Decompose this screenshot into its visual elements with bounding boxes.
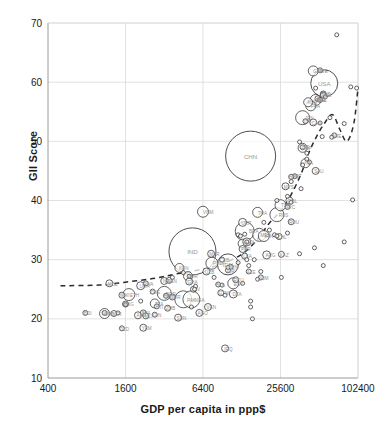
data-bubble (328, 116, 332, 120)
data-bubble (298, 140, 302, 144)
chart-root: 10203040506070 4001600640025600102400 CH… (0, 0, 381, 427)
bubble-label: POL (288, 199, 298, 204)
bubble-label: SOM (102, 311, 113, 316)
y-tick-label: 70 (31, 18, 43, 29)
bubble-label: GIN (153, 313, 161, 318)
y-axis-label: GII Score (27, 101, 39, 211)
data-bubble (289, 180, 293, 184)
bubble-label: USA (318, 80, 332, 87)
bubble-label: BOL (216, 283, 226, 288)
bubble-label: ISR (304, 119, 312, 124)
bubble-label: LKA (243, 254, 253, 259)
bubble-label: THA (258, 211, 268, 216)
data-bubble (335, 33, 339, 37)
data-bubble (249, 305, 253, 309)
y-tick-label: 60 (31, 77, 43, 88)
bubble-label: IND (187, 248, 198, 255)
bubble-label: MMR (187, 274, 199, 279)
x-tick-label: 400 (40, 383, 57, 394)
bubble-label: NER (112, 312, 122, 317)
x-axis-label: GDP per capita in ppp$ (48, 403, 358, 415)
data-bubble (351, 198, 355, 202)
data-bubble (355, 86, 359, 90)
bubble-label: SDN (177, 316, 187, 321)
bubble-label: TCD (120, 327, 130, 332)
bubble-label: DZA (232, 292, 242, 297)
bubble-label: CHL (277, 235, 287, 240)
bubble-label: ITA (306, 161, 314, 166)
data-bubble (299, 187, 303, 191)
data-bubble (312, 246, 316, 250)
x-tick-label: 25600 (267, 383, 295, 394)
bubble-label: BEN (164, 294, 173, 299)
data-bubble (320, 135, 324, 139)
bubble-label: VNM (203, 210, 213, 215)
scatter-plot-svg: 10203040506070 4001600640025600102400 CH… (0, 0, 381, 427)
data-bubble (212, 275, 216, 279)
bubble-label: SAU (314, 169, 323, 174)
plot-background (0, 0, 381, 427)
bubble-label: MDG (123, 302, 134, 307)
bubble-label: ARE (332, 134, 341, 139)
data-bubble (262, 220, 266, 224)
bubble-label: MWI (120, 293, 129, 298)
bubble-label: MYS (284, 185, 294, 190)
bubble-label: CHN (244, 153, 257, 160)
data-bubble (247, 264, 251, 268)
bubble-label: ETH (130, 293, 139, 298)
x-tick-label: 6400 (192, 383, 215, 394)
bubble-label: CAN (312, 121, 322, 126)
data-bubble (243, 232, 247, 236)
bubble-label: KAZ (280, 253, 289, 258)
bubble-label: JOR (226, 269, 236, 274)
bubble-label: MAR (209, 252, 220, 257)
bubble-label: AGO (198, 311, 209, 316)
bubble-label: BRA (249, 229, 259, 234)
bubble-label: SWE (317, 69, 327, 74)
bubble-label: YEM (142, 326, 152, 331)
bubble-label: RUS (279, 213, 289, 218)
x-tick-label: 1600 (114, 383, 137, 394)
data-bubble (250, 317, 254, 321)
bubble-label: BDI (84, 311, 92, 316)
bubble-label: DOM (258, 276, 269, 281)
bubble-label: RWA (143, 282, 154, 287)
bubble-label: COL (246, 240, 256, 245)
bubble-label: UKR (242, 221, 252, 226)
bubble-label: KEN (179, 266, 188, 271)
bubble-label: IRN (265, 234, 273, 239)
data-bubble (139, 299, 143, 303)
bubble-label: ROU (289, 220, 299, 225)
data-bubble (275, 199, 279, 203)
data-bubble (342, 122, 346, 126)
bubble-label: AZE (247, 270, 256, 275)
bubble-label: MLI (145, 314, 153, 319)
bubble-label: IRQ (224, 347, 233, 352)
data-bubble (321, 264, 325, 268)
bubble-label: ZMB (166, 306, 176, 311)
bubble-label: HTI (155, 305, 162, 310)
data-bubble (349, 85, 353, 89)
bubble-label: CIV (193, 287, 202, 292)
y-tick-label: 10 (31, 373, 43, 384)
y-tick-label: 30 (31, 254, 43, 265)
bubble-label: PER (241, 247, 251, 252)
data-bubble (267, 228, 271, 232)
data-bubble (238, 234, 242, 238)
data-bubble (249, 299, 253, 303)
bubble-label: MOZ (108, 282, 118, 287)
x-tick-label: 102400 (341, 383, 375, 394)
bubble-label: SEN (167, 279, 176, 284)
bubble-label: ZWE (150, 290, 160, 295)
bubble-label: NGA (194, 298, 205, 303)
data-bubble (252, 258, 256, 262)
bubble-label: UZB (205, 270, 214, 275)
data-bubble (301, 163, 305, 167)
bubble-label: GTM (219, 291, 229, 296)
data-bubble (305, 151, 309, 155)
bubble-label: BEL (318, 98, 327, 103)
data-bubble (189, 305, 193, 309)
bubble-label: ECU (234, 278, 244, 283)
data-bubble (342, 240, 346, 244)
bubble-label: HUN (289, 175, 299, 180)
